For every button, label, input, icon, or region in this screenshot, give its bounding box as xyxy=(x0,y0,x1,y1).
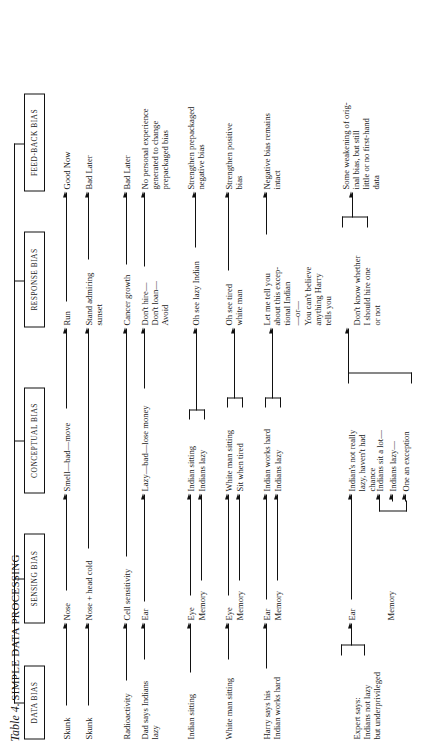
cell-data-bias-row-5: Indian sitting xyxy=(186,693,196,739)
arrow-r6-c2b xyxy=(239,494,240,580)
cell-sensing-bias-row-8-ear: Ear xyxy=(347,608,357,620)
cell-sensing-bias-row-6-memory: Memory xyxy=(235,590,245,620)
brace-row-8-response xyxy=(342,216,368,227)
cell-conceptual-bias-row-4: Lazy—bad—lose money xyxy=(140,405,150,491)
figure-title-number: Table 4. xyxy=(8,703,22,741)
arrow-r8-mem-b xyxy=(392,494,393,501)
header-bracket-tick-2 xyxy=(14,578,24,579)
header-bracket-tick-4 xyxy=(14,280,24,281)
brace-row-7 xyxy=(265,397,281,407)
arrow-r5-c2b xyxy=(201,494,202,580)
cell-data-bias-row-1: Skunk xyxy=(62,717,72,739)
arrow-r8-c1 xyxy=(351,623,352,645)
cell-response-bias-row-4: Don't hire— Don't loan— Avoid xyxy=(140,281,170,325)
cell-response-bias-row-3: Cancer growth xyxy=(122,274,132,325)
cell-response-bias-row-6: Oh see tired white man xyxy=(224,283,244,325)
cell-conceptual-bias-row-8-b: Indians sit a lot— xyxy=(375,430,385,491)
arrow-r7-c2b xyxy=(277,494,278,580)
arrow-r3-c4 xyxy=(126,192,127,264)
figure-viewport: Table 4. SIMPLE DATA PROCESSING DATA BIA… xyxy=(0,0,428,751)
cell-sensing-bias-row-3: Cell sensitivity xyxy=(122,568,132,620)
arrow-r4-c3 xyxy=(144,328,145,388)
cell-conceptual-bias-row-8-c: Indians lazy— xyxy=(388,441,398,491)
cell-sensing-bias-row-2: Nose + head cold xyxy=(84,560,94,620)
arrow-r1-c4 xyxy=(66,192,67,301)
header-bracket-rail xyxy=(14,143,15,703)
arrow-r6-c2a xyxy=(228,494,229,595)
cell-response-bias-row-1: Run xyxy=(62,311,72,325)
cell-response-bias-row-8: Don't know whether I should hire one or … xyxy=(352,255,382,325)
arrow-r4-c4 xyxy=(144,192,145,266)
column-header-feedback-bias: FEED-BACK BIAS xyxy=(24,93,45,191)
cell-sensing-bias-row-4: Ear xyxy=(140,608,150,620)
cell-feedback-bias-row-1: Good Now xyxy=(62,151,72,189)
arrow-r5-c3 xyxy=(196,328,197,410)
cell-conceptual-bias-row-1: Smell—bad—move xyxy=(62,422,72,491)
arrow-r5-c1 xyxy=(190,623,191,672)
cell-conceptual-bias-row-5-a: Indian sitting xyxy=(186,445,196,491)
cell-sensing-bias-row-7-memory: Memory xyxy=(273,590,283,620)
cell-data-bias-row-3: Radioactivity xyxy=(122,693,132,739)
arrow-r7-c3 xyxy=(272,328,273,398)
arrow-r4-c2 xyxy=(144,494,145,601)
arrow-r4-c1 xyxy=(144,623,145,659)
column-header-sensing-bias: SENSING BIAS xyxy=(24,533,45,623)
table-4-simple-data-processing: Table 4. SIMPLE DATA PROCESSING DATA BIA… xyxy=(0,0,428,751)
arrow-r8-mem-a xyxy=(379,494,380,501)
figure-title: Table 4. SIMPLE DATA PROCESSING xyxy=(8,554,23,741)
arrow-r7-c2a xyxy=(266,494,267,599)
cell-feedback-bias-row-8: Some weakening of orig- inal bias, but s… xyxy=(341,102,382,189)
cell-conceptual-bias-row-8-a: Indian's not really lazy, haven't had ch… xyxy=(347,429,377,491)
arrow-r8-c3 xyxy=(348,328,349,373)
figure-title-text: SIMPLE DATA PROCESSING xyxy=(9,554,21,700)
header-bracket-tick-1 xyxy=(14,702,24,703)
brace-row-5 xyxy=(189,409,205,419)
header-bracket-tick-5 xyxy=(14,143,24,144)
header-bracket-tick-3 xyxy=(14,440,24,441)
cell-data-bias-row-4: Dad says Indians lazy xyxy=(140,680,160,739)
cell-feedback-bias-row-5: Strengthen prepackaged negative bias xyxy=(186,106,206,189)
arrow-r2-c2 xyxy=(88,328,89,548)
arrow-r8-c4 xyxy=(352,192,353,217)
arrow-r2-c4 xyxy=(88,192,89,259)
arrow-r2-c1 xyxy=(88,623,89,705)
arrow-r5-c2a xyxy=(190,494,191,595)
cell-feedback-bias-row-4: No personal experience generated to chan… xyxy=(140,108,170,189)
brace-row-8-memory xyxy=(379,500,407,511)
cell-conceptual-bias-row-6-a: White man sitting xyxy=(224,429,234,491)
cell-data-bias-row-7: Harry says his Indian works hard xyxy=(262,676,282,739)
cell-data-bias-row-6: White man sitting xyxy=(224,677,234,739)
cell-sensing-bias-row-5-memory: Memory xyxy=(197,590,207,620)
cell-feedback-bias-row-2: Bad Later xyxy=(84,155,94,189)
cell-conceptual-bias-row-7-a: Indian works hard xyxy=(262,428,272,491)
cell-data-bias-row-8: Expert says: Indians not lazy but underp… xyxy=(352,671,382,739)
arrow-r8-mem-c xyxy=(405,494,406,501)
arrow-r5-c4 xyxy=(195,192,196,247)
brace-row-6 xyxy=(227,397,243,407)
cell-conceptual-bias-row-8-d: One an exception xyxy=(401,431,411,491)
arrow-r1-c1 xyxy=(66,623,67,705)
arrow-r6-c4 xyxy=(228,192,229,270)
arrow-r3-c1 xyxy=(126,623,127,680)
cell-response-bias-row-2: Stand admiring sunset xyxy=(84,272,104,325)
brace-row-8-left xyxy=(341,644,365,655)
arrow-r6-c3 xyxy=(234,328,235,398)
cell-sensing-bias-row-8-memory: Memory xyxy=(386,590,396,620)
cell-sensing-bias-row-1: Nose xyxy=(62,602,72,620)
arrow-r7-c1 xyxy=(266,623,267,668)
cell-response-bias-row-5: Oh see lazy Indian xyxy=(191,261,201,325)
cell-feedback-bias-row-3: Bad Later xyxy=(122,155,132,189)
arrow-r6-c1 xyxy=(228,623,229,659)
column-header-conceptual-bias: CONCEPTUAL BIAS xyxy=(24,387,45,493)
cell-response-bias-row-7: Let me tell you about this excep- tional… xyxy=(262,266,333,325)
column-header-response-bias: RESPONSE BIAS xyxy=(24,231,45,327)
cell-feedback-bias-row-7: Negative bias remains intact xyxy=(262,113,282,189)
arrow-r7-c4 xyxy=(266,192,267,234)
arrow-r8-c2a xyxy=(351,494,352,599)
cell-feedback-bias-row-6: Strengthen positive bias xyxy=(224,122,244,189)
cell-data-bias-row-2: Skunk xyxy=(84,717,94,739)
cell-sensing-bias-row-5-eye: Eye xyxy=(186,607,196,620)
cell-conceptual-bias-row-7-b: Indians lazy xyxy=(273,449,283,491)
cell-sensing-bias-row-7-ear: Ear xyxy=(262,608,272,620)
arrow-r3-c2 xyxy=(126,328,127,556)
